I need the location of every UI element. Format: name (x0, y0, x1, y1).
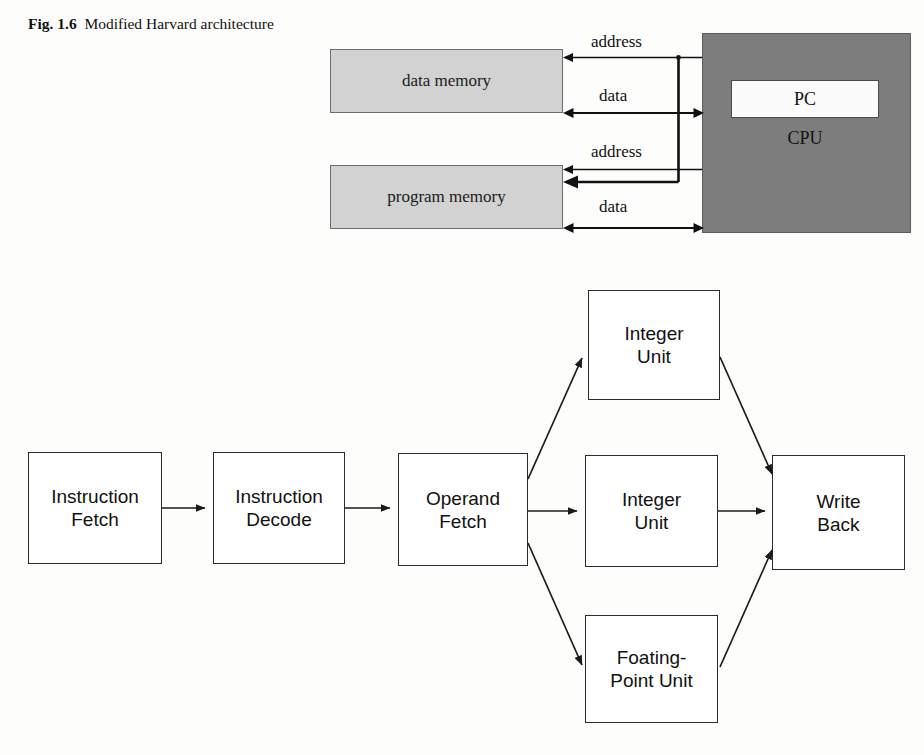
bus-data-data (563, 108, 704, 118)
stage-label: Instruction Decode (235, 485, 323, 531)
arrow-of-to-integer-top (528, 358, 582, 479)
data-memory-block: data memory (330, 49, 563, 113)
program-memory-block: program memory (330, 165, 563, 229)
stage-label: Operand Fetch (426, 487, 500, 533)
data-memory-label: data memory (402, 71, 491, 91)
stage-instruction-fetch: Instruction Fetch (28, 452, 162, 564)
caption-text: Modified Harvard architecture (84, 15, 273, 32)
program-memory-data-label: data (599, 197, 627, 217)
stage-write-back: Write Back (772, 455, 905, 570)
program-memory-address-label: address (591, 142, 642, 162)
stage-instruction-decode: Instruction Decode (213, 452, 345, 564)
program-memory-label: program memory (387, 187, 506, 207)
stage-label: Write Back (817, 490, 861, 536)
stage-label: Foating- Point Unit (610, 646, 692, 692)
data-memory-address-label: address (591, 32, 642, 52)
bus-program-address (563, 165, 702, 174)
stage-label: Integer Unit (624, 322, 683, 368)
arrow-integer-top-to-write-back (720, 357, 772, 474)
arrow-of-to-fp-unit (528, 543, 582, 665)
bus-pc-to-program-memory (563, 55, 681, 188)
bus-data-address (563, 53, 702, 62)
figure-page: Fig. 1.6 Modified Harvard architecture P… (0, 0, 924, 755)
stage-integer-unit-top: Integer Unit (588, 290, 720, 400)
pc-register-box: PC (731, 80, 879, 118)
stage-floating-point-unit: Foating- Point Unit (585, 615, 718, 723)
stage-operand-fetch: Operand Fetch (398, 453, 528, 566)
figure-number: Fig. 1.6 (28, 15, 77, 32)
stage-integer-unit-mid: Integer Unit (585, 455, 718, 567)
data-memory-data-label: data (599, 86, 627, 106)
stage-label: Integer Unit (622, 488, 681, 534)
stage-label: Instruction Fetch (51, 485, 139, 531)
figure-caption: Fig. 1.6 Modified Harvard architecture (28, 14, 300, 34)
bottom-bleed-text (20, 745, 440, 755)
pc-label: PC (794, 89, 816, 110)
bus-program-data (563, 223, 704, 233)
arrow-fp-unit-to-write-back (720, 550, 772, 667)
cpu-label: CPU (731, 128, 879, 149)
